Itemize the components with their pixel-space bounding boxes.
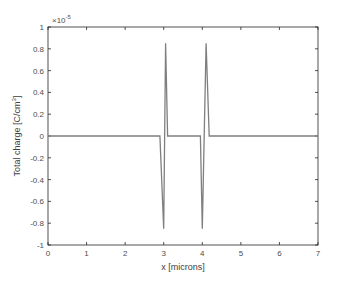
y-tick-label: 1 (40, 23, 45, 32)
plot-area: 01234567 -1-0.8-0.6-0.4-0.200.20.40.60.8… (30, 23, 321, 258)
y-tick-label: -0.2 (30, 154, 44, 163)
x-axis-label: x [microns] (161, 262, 205, 272)
y-tick-label: 0 (40, 132, 45, 141)
x-tick-label: 4 (200, 249, 205, 258)
x-tick-label: 1 (84, 249, 89, 258)
y-tick-label: -0.8 (30, 219, 44, 228)
y-tick-label: 0.8 (33, 45, 45, 54)
y-tick-label: 0.2 (33, 110, 45, 119)
x-tick-label: 6 (277, 249, 282, 258)
chart: 01234567 -1-0.8-0.6-0.4-0.200.20.40.60.8… (0, 0, 337, 287)
y-tick-label: 0.4 (33, 88, 45, 97)
x-tick-label: 3 (161, 249, 166, 258)
x-tick-label: 2 (123, 249, 128, 258)
x-tick-label: 5 (239, 249, 244, 258)
x-tick-label: 0 (46, 249, 51, 258)
y-tick-label: 0.6 (33, 67, 45, 76)
y-tick-label: -0.6 (30, 197, 44, 206)
y-axis-label: Total charge [C/cm3] (11, 96, 22, 177)
y-tick-label: -1 (37, 241, 45, 250)
y-exponent-label: ×10-5 (52, 14, 72, 25)
y-tick-label: -0.4 (30, 176, 44, 185)
x-tick-label: 7 (316, 249, 321, 258)
